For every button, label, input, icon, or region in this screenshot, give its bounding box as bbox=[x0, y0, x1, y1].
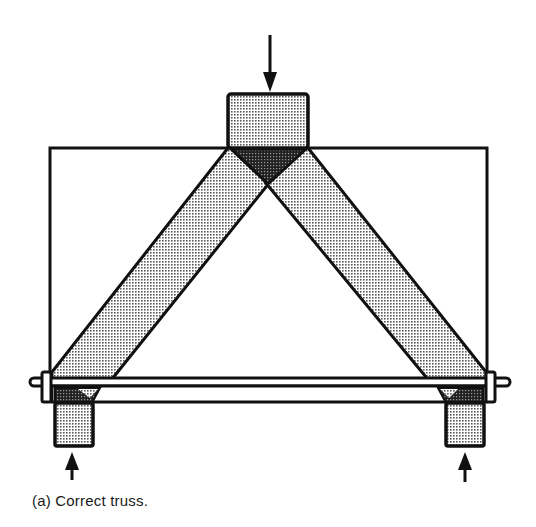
right-reaction-arrow-up-icon bbox=[458, 452, 472, 482]
right-diagonal-member bbox=[258, 148, 486, 394]
left-diagonal-member bbox=[52, 148, 278, 394]
load-block bbox=[228, 94, 308, 148]
right-support-block bbox=[446, 403, 484, 446]
truss-diagram bbox=[0, 0, 536, 527]
left-reaction-arrow-up-icon bbox=[65, 452, 79, 480]
load-arrow-down-icon bbox=[263, 35, 277, 92]
left-support-block bbox=[55, 403, 93, 446]
figure-caption: (a) Correct truss. bbox=[32, 492, 148, 509]
